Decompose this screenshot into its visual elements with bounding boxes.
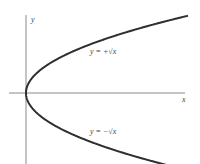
x-axis-label: x	[182, 96, 186, 104]
y-axis-label: y	[31, 16, 35, 24]
parabola-diagram: y x y = +√x y = −√x	[0, 0, 200, 164]
plot-canvas	[0, 0, 200, 164]
upper-curve-equation: y = +√x	[90, 48, 116, 56]
lower-curve-equation: y = −√x	[90, 128, 116, 136]
